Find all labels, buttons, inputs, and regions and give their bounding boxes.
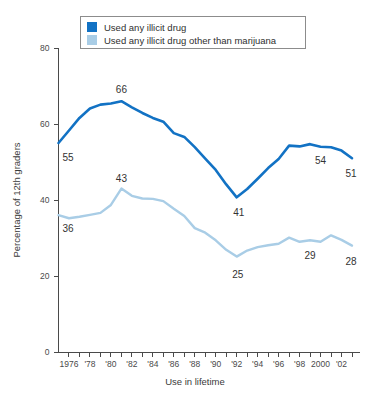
y-tick-label: 0 [45,347,50,357]
x-tick-label: '90 [210,359,221,369]
y-axis-ticks: 020406080 [40,43,58,357]
line-chart: Used any illicit drug Used any illicit d… [0,0,380,404]
y-axis-title: Percentage of 12th graders [11,142,22,257]
data-point-label: 29 [305,250,317,261]
x-tick-label: '86 [168,359,179,369]
x-tick-label: 2000 [311,359,330,369]
legend-label-used-any-illicit-drug-other-than-marijuana: Used any illicit drug other than marijua… [104,35,277,46]
data-point-label: 54 [315,155,327,166]
data-point-label: 66 [116,84,128,95]
y-axis: 020406080 [40,43,58,357]
x-tick-label: 1976 [60,359,79,369]
data-point-label: 25 [232,269,244,280]
y-tick-label: 80 [40,43,50,53]
x-axis: 1976'78'80'82'84'86'88'90'92'94'96'98200… [59,352,361,369]
series-lines [59,101,353,256]
x-tick-label: '02 [336,359,347,369]
series-point-labels: 55664154513643252928 [63,84,357,280]
x-tick-label: '96 [273,359,284,369]
y-tick-label: 40 [40,195,50,205]
x-tick-label: '88 [189,359,200,369]
x-tick-label: '80 [105,359,116,369]
x-tick-label: '92 [231,359,242,369]
data-point-label: 55 [63,152,75,163]
data-point-label: 28 [345,256,357,267]
series-line-illicit-drug-other-than-marijuana [59,189,353,257]
chart-container: Used any illicit drug Used any illicit d… [0,0,380,404]
x-tick-label: '84 [147,359,158,369]
y-tick-label: 60 [40,119,50,129]
x-axis-tick-labels: 1976'78'80'82'84'86'88'90'92'94'96'98200… [60,359,348,369]
data-point-label: 43 [116,173,128,184]
x-tick-label: '78 [84,359,95,369]
x-tick-label: '94 [252,359,263,369]
legend-label-used-any-illicit-drug: Used any illicit drug [104,22,186,33]
legend-swatch-used-any-illicit-drug-other-than-marijuana [87,35,97,45]
data-point-label: 36 [63,223,75,234]
series-line-illicit-drug [59,101,353,197]
data-point-label: 51 [345,168,357,179]
x-tick-label: '82 [126,359,137,369]
legend: Used any illicit drug Used any illicit d… [81,17,306,49]
legend-swatch-used-any-illicit-drug [87,22,97,32]
data-point-label: 41 [233,207,245,218]
x-axis-title: Use in lifetime [165,376,225,387]
y-tick-label: 20 [40,271,50,281]
x-tick-label: '98 [294,359,305,369]
